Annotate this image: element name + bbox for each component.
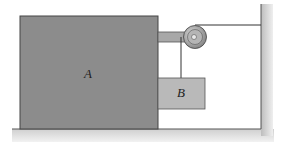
label-block-a: A	[84, 66, 92, 82]
wall	[261, 4, 273, 136]
pulley	[184, 26, 207, 49]
diagram-canvas	[0, 0, 282, 147]
label-block-b: B	[177, 85, 185, 101]
ground	[12, 129, 274, 142]
